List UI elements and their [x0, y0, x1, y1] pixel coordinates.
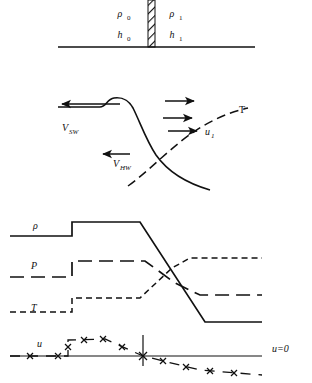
h1-symbol: h — [170, 29, 175, 40]
h0-subscript: 0 — [127, 35, 131, 43]
u1-symbol: u — [205, 126, 210, 137]
u-curve-label: u — [37, 338, 42, 349]
vsw-subscript: SW — [69, 128, 80, 136]
figure-root: ρ 0 h 0 ρ 1 h 1 V SW V HW u 1 T — [0, 0, 312, 383]
vhw-subscript: HW — [119, 164, 132, 172]
u-profile-curve — [10, 339, 262, 375]
h1-subscript: 1 — [179, 35, 183, 43]
profiles-panel: ρ P T u=0 u — [10, 220, 289, 376]
left-state-labels: ρ 0 h 0 — [117, 8, 131, 43]
rho1-subscript: 1 — [179, 14, 183, 22]
figure-svg: ρ 0 h 0 ρ 1 h 1 V SW V HW u 1 T — [0, 0, 312, 383]
rho0-symbol: ρ — [117, 8, 123, 19]
shock-profile-curve — [58, 98, 210, 190]
T-curve-label: T — [31, 302, 38, 313]
u-zero-label: u=0 — [272, 343, 289, 354]
rho-profile-curve — [10, 222, 262, 322]
P-profile-curve — [10, 261, 262, 295]
P-curve-label: P — [30, 260, 37, 271]
rho-curve-label: ρ — [32, 220, 38, 231]
rho0-subscript: 0 — [127, 14, 131, 22]
right-state-labels: ρ 1 h 1 — [169, 8, 183, 43]
wave-structure-panel: V SW V HW u 1 T — [58, 98, 248, 190]
T-profile-curve — [10, 258, 262, 312]
rarefaction-dashed-curve — [128, 108, 248, 186]
h0-symbol: h — [118, 29, 123, 40]
initial-discontinuity-panel: ρ 0 h 0 ρ 1 h 1 — [58, 0, 255, 47]
u1-subscript: 1 — [211, 132, 215, 140]
transmitted-wave-label: T — [239, 104, 245, 115]
hatched-wall — [148, 0, 155, 47]
rho1-symbol: ρ — [169, 8, 175, 19]
